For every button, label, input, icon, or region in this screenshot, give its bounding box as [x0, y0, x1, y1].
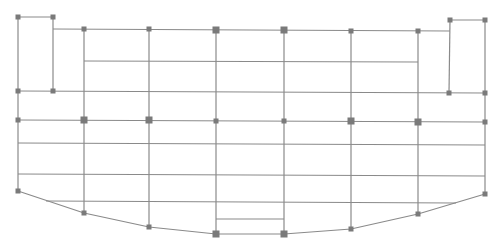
grid-line [46, 201, 456, 203]
node-marker-n27 [281, 231, 288, 238]
grid-line [18, 174, 485, 176]
node-marker-n16 [81, 117, 88, 124]
node-marker-n24 [82, 211, 87, 216]
node-marker-n11 [448, 18, 453, 23]
node-marker-n3 [16, 89, 21, 94]
node-marker-n22 [483, 120, 488, 125]
node-marker-n26 [213, 231, 220, 238]
node-marker-n19 [282, 119, 287, 124]
node-marker-n2 [51, 15, 56, 20]
node-marker-n21 [415, 119, 422, 126]
node-marker-n7 [213, 27, 220, 34]
node-marker-n1 [16, 15, 21, 20]
node-marker-n10 [416, 29, 421, 34]
structural-grid-diagram [0, 0, 500, 249]
node-marker-n13 [447, 91, 452, 96]
grid-nodes [16, 15, 488, 238]
bottom-curved-edge [18, 191, 485, 234]
node-marker-n14 [483, 91, 488, 96]
node-marker-n8 [281, 27, 288, 34]
node-marker-n30 [483, 192, 488, 197]
node-marker-n6 [147, 27, 152, 32]
node-marker-n17 [146, 117, 153, 124]
node-marker-n29 [416, 212, 421, 217]
node-marker-n25 [147, 225, 152, 230]
grid-line [18, 91, 485, 93]
grid-line [84, 61, 418, 62]
node-marker-n20 [348, 118, 355, 125]
node-marker-n4 [51, 89, 56, 94]
node-marker-n15 [16, 118, 21, 123]
node-marker-n18 [214, 119, 219, 124]
grid-line [53, 29, 450, 31]
node-marker-n28 [349, 227, 354, 232]
node-marker-n5 [82, 27, 87, 32]
node-marker-n23 [16, 189, 21, 194]
node-marker-n12 [483, 18, 488, 23]
node-marker-n9 [349, 29, 354, 34]
grid-line [18, 143, 485, 145]
